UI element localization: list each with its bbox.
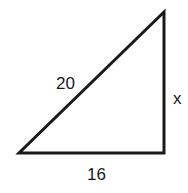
triangle-diagram: 20 x 16 <box>0 0 188 193</box>
vertical-side-label: x <box>173 89 182 108</box>
hypotenuse-label: 20 <box>56 74 75 93</box>
right-triangle <box>19 12 164 153</box>
base-label: 16 <box>87 165 106 184</box>
